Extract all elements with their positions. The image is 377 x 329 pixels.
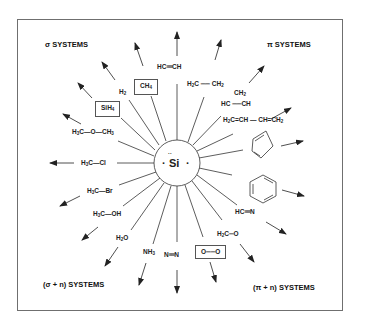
silane-box: SiH4	[95, 101, 120, 117]
hydrogen-label: H2	[119, 88, 126, 98]
chloromethane-label: H3C—Cl	[81, 159, 106, 169]
nitrogen-label: N≡≡N	[164, 251, 179, 259]
si-lone-pair-dots: ··	[168, 150, 172, 156]
acetylene-label: HC≡≡CH	[157, 63, 181, 71]
ethylene-label: H2C ══ CH2	[187, 80, 224, 90]
cyclopropene-bottom-label: HC ══CH	[221, 100, 251, 108]
pi-n-systems-label: (π + n) SYSTEMS	[253, 283, 315, 292]
dimethyl-ether-label: H3C—O—CH3	[72, 128, 114, 138]
oxygen-box: O══O	[195, 245, 226, 259]
silylene-reactivity-diagram: ·· · Si · σ SYSTEMS π SYSTEMS (σ + n) SY…	[0, 0, 377, 329]
benzene-ring	[250, 175, 276, 203]
hydrogen-cyanide-label: HC≡≡N	[235, 208, 255, 216]
methane-box: CH4	[134, 79, 158, 95]
sigma-n-systems-label: (σ + n) SYSTEMS	[43, 280, 104, 289]
butadiene-label: H2C=CH — CH=CH2	[223, 116, 283, 126]
sigma-systems-label: σ SYSTEMS	[45, 40, 88, 49]
methanol-label: H3C—OH	[93, 210, 121, 220]
formaldehyde-label: H2C═O	[217, 230, 239, 240]
cyclopropene-top-label: CH2	[234, 89, 246, 99]
bromomethane-label: H3C—Br	[87, 187, 113, 197]
water-label: H2O	[116, 234, 128, 244]
si-atom-label: Si	[169, 157, 179, 169]
ammonia-label: NH3	[143, 248, 155, 258]
si-left-dot: ·	[162, 157, 166, 169]
cyclopentadiene-ring	[252, 131, 273, 158]
si-right-dot: ·	[186, 157, 190, 169]
pi-systems-label: π SYSTEMS	[267, 40, 311, 49]
